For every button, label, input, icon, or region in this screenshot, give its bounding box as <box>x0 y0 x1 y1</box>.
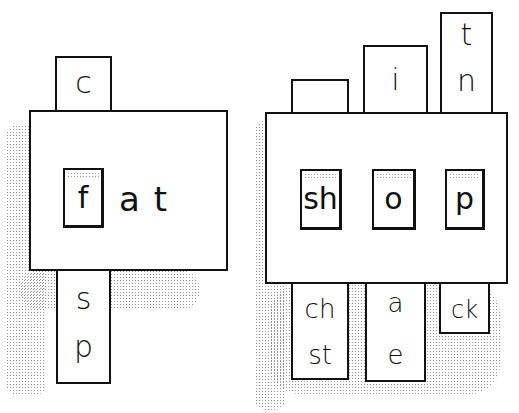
strip-letter: p <box>58 332 109 362</box>
strip-letter: i <box>365 65 426 95</box>
left-window: f <box>63 168 104 228</box>
right-window-1: sh <box>300 169 342 230</box>
left-top-strip[interactable]: c <box>55 56 112 114</box>
strip-letter: n <box>442 66 491 96</box>
right-bottom-strip-3[interactable]: ck <box>439 280 490 334</box>
right-top-strip-1[interactable] <box>291 79 349 115</box>
strip-letter: s <box>58 284 109 314</box>
right-card: sh o p <box>265 112 508 284</box>
right-bottom-strip-2[interactable]: a e <box>365 280 426 382</box>
strip-letter: st <box>293 342 347 368</box>
left-bottom-strip[interactable]: s p <box>56 266 111 384</box>
window-letter: o <box>384 184 402 214</box>
right-bottom-strip-1[interactable]: ch st <box>291 280 349 380</box>
strip-letter: ck <box>441 298 488 322</box>
window-letter: sh <box>303 184 338 214</box>
window-letter: p <box>455 184 474 214</box>
left-card: f at <box>29 110 228 271</box>
right-window-2: o <box>372 169 416 230</box>
right-top-strip-3[interactable]: t n <box>440 12 493 115</box>
strip-letter: a <box>367 290 424 316</box>
right-window-3: p <box>445 169 485 230</box>
strip-letter: ch <box>293 296 347 322</box>
strip-letter: e <box>367 342 424 368</box>
right-top-strip-2[interactable]: i <box>363 45 428 115</box>
word-ending: at <box>119 182 181 216</box>
window-letter: f <box>78 183 89 213</box>
strip-letter: c <box>57 68 110 98</box>
strip-letter: t <box>442 20 491 50</box>
